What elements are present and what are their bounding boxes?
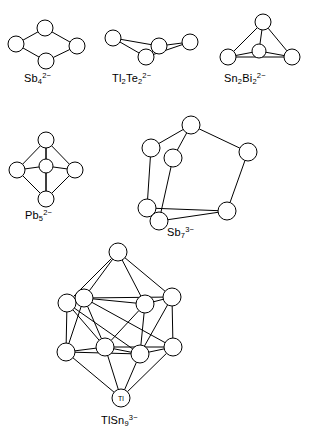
bond-line bbox=[154, 299, 164, 301]
atom-node bbox=[109, 243, 127, 261]
bond-line bbox=[25, 167, 39, 169]
bond-line bbox=[125, 362, 137, 389]
formula-label-tlsn9: TlSn93− bbox=[101, 414, 138, 426]
formula-label-pb5: Pb52− bbox=[25, 209, 52, 221]
atom-node bbox=[142, 139, 160, 157]
bond-line bbox=[167, 43, 182, 45]
bond-line bbox=[53, 167, 67, 169]
atom-node bbox=[150, 212, 168, 230]
atom-node bbox=[105, 30, 121, 46]
cluster-sn2bi2 bbox=[220, 14, 300, 65]
atom-node bbox=[164, 338, 182, 356]
cluster-sb4 bbox=[8, 20, 85, 69]
atom-node bbox=[182, 116, 200, 134]
bond-line bbox=[23, 176, 41, 194]
atom-node bbox=[163, 288, 181, 306]
bond-line bbox=[268, 28, 287, 51]
cluster-tlsn9: Tl bbox=[57, 243, 182, 407]
atom-label: Tl bbox=[118, 395, 124, 402]
chemical-structure-figure: Tl Sb42−Tl2Te22−Sn2Bi22−Pb52−Sb73−TlSn93… bbox=[0, 0, 309, 440]
atom-node bbox=[136, 295, 154, 313]
bond-line bbox=[23, 32, 38, 40]
bond-line bbox=[66, 312, 67, 343]
atom-node bbox=[67, 162, 83, 178]
bond-line bbox=[141, 313, 144, 345]
bond-line bbox=[23, 146, 41, 164]
bond-line bbox=[266, 52, 284, 55]
atom-node bbox=[9, 162, 25, 178]
formula-label-sb7: Sb73− bbox=[167, 226, 194, 238]
bond-line bbox=[92, 302, 165, 342]
bond-line bbox=[53, 49, 70, 57]
cluster-sb7 bbox=[138, 116, 257, 230]
bond-line bbox=[73, 358, 114, 392]
bond-line bbox=[149, 349, 164, 352]
bond-line bbox=[89, 259, 112, 291]
atom-node bbox=[37, 20, 53, 36]
bond-line bbox=[121, 39, 151, 44]
atom-node bbox=[151, 38, 167, 54]
atom-node bbox=[164, 149, 182, 167]
atom-node bbox=[182, 34, 198, 50]
cluster-pb5 bbox=[9, 132, 83, 207]
atom-node bbox=[75, 289, 93, 307]
bond-line bbox=[108, 356, 119, 390]
atom-node bbox=[57, 343, 75, 361]
bond-line bbox=[52, 176, 70, 194]
cluster-tl2te2 bbox=[105, 30, 198, 65]
atom-node bbox=[220, 49, 236, 65]
bond-line bbox=[52, 32, 70, 42]
atom-node bbox=[255, 14, 271, 30]
atom-node bbox=[38, 53, 54, 69]
atom-node bbox=[58, 294, 76, 312]
bond-line bbox=[199, 129, 240, 148]
bond-line bbox=[120, 42, 139, 53]
atom-node bbox=[8, 36, 24, 52]
bond-line bbox=[159, 129, 183, 143]
atom-node bbox=[131, 345, 149, 363]
bond-line bbox=[260, 30, 262, 44]
bond-group-tlsn9 bbox=[66, 258, 173, 392]
bond-line bbox=[75, 348, 96, 351]
bond-line bbox=[177, 133, 186, 150]
bond-line bbox=[161, 167, 171, 212]
atom-node bbox=[218, 202, 236, 220]
atom-node bbox=[96, 338, 114, 356]
bond-line bbox=[236, 52, 252, 55]
bond-line bbox=[52, 146, 70, 164]
atom-node bbox=[69, 38, 85, 54]
bond-line bbox=[168, 212, 218, 219]
bond-line bbox=[114, 349, 131, 352]
bond-line bbox=[230, 160, 245, 202]
atom-node bbox=[38, 132, 54, 148]
atom-node bbox=[38, 191, 54, 207]
bond-line bbox=[172, 306, 173, 338]
formula-label-tl2te2: Tl2Te22− bbox=[112, 72, 151, 84]
atom-node bbox=[252, 44, 266, 58]
formula-label-sn2bi2: Sn2Bi22− bbox=[224, 72, 266, 84]
bond-line bbox=[125, 258, 165, 291]
atom-node bbox=[284, 49, 300, 65]
bond-line bbox=[148, 157, 151, 199]
atom-node bbox=[138, 49, 154, 65]
bond-line bbox=[122, 260, 141, 296]
bond-line bbox=[93, 297, 163, 298]
bond-line bbox=[156, 208, 218, 210]
atom-node bbox=[39, 159, 53, 173]
atom-node bbox=[239, 143, 257, 161]
bond-line bbox=[93, 299, 136, 303]
formula-label-sb4: Sb42− bbox=[24, 72, 51, 84]
bond-line bbox=[23, 48, 39, 57]
